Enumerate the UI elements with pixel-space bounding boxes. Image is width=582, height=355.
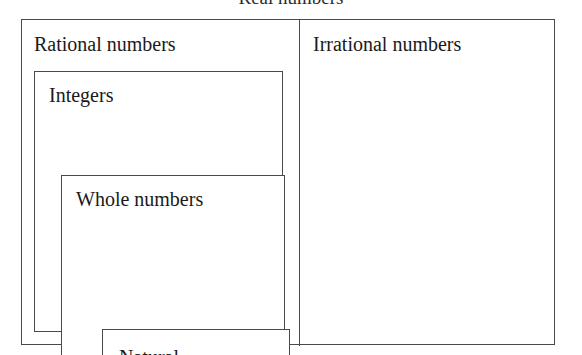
rational-irrational-divider [299,20,300,346]
integers-box: Integers Whole numbers Natural numbers [34,71,283,332]
irrational-numbers-label: Irrational numbers [313,32,461,56]
diagram-title: Real numbers [0,0,582,9]
natural-numbers-label: Natural numbers [119,344,239,355]
rational-numbers-label: Rational numbers [34,32,176,56]
natural-numbers-box: Natural numbers [102,329,290,355]
whole-numbers-box: Whole numbers Natural numbers [61,175,285,355]
integers-label: Integers [49,83,113,107]
whole-numbers-label: Whole numbers [76,187,203,211]
real-numbers-box: Rational numbers Irrational numbers Inte… [21,19,555,345]
